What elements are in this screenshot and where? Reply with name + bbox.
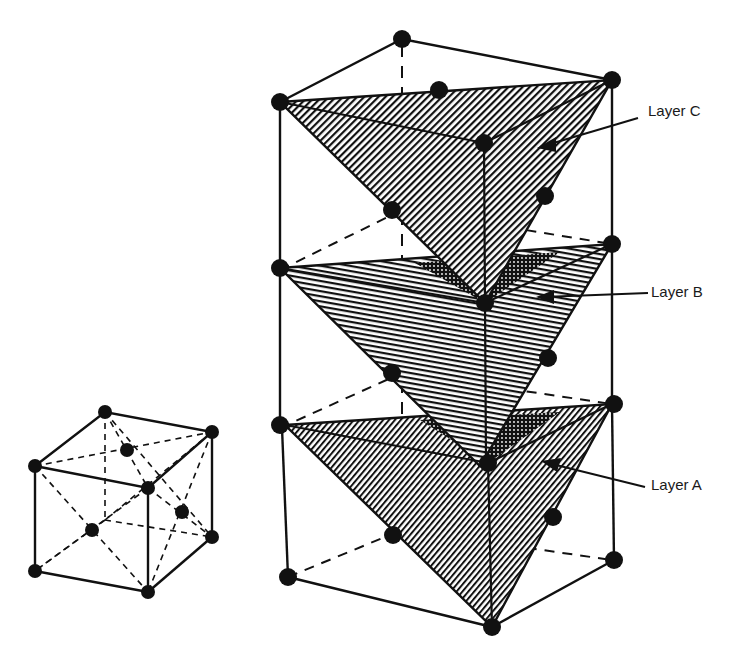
layer-c-label: Layer C bbox=[648, 102, 701, 119]
fcc-unit-cell bbox=[28, 405, 219, 599]
fcc-stacking-diagram bbox=[0, 0, 749, 649]
layer-b-label: Layer B bbox=[651, 283, 703, 300]
layer-a-label: Layer A bbox=[651, 476, 702, 493]
stacked-lattice bbox=[271, 30, 648, 636]
